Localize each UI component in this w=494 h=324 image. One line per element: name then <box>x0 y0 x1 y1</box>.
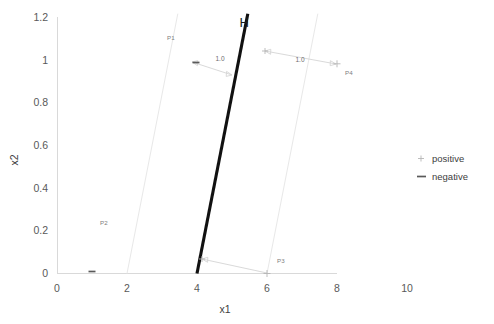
margin-distance-left-label: 1.0 <box>215 55 224 62</box>
point-labels-group: P1 P2 P3 P4 <box>100 34 353 264</box>
margin-arrow-left: 1.0 <box>192 55 232 76</box>
margin-line-left <box>127 14 178 274</box>
legend-label-positive: positive <box>432 153 464 164</box>
legend: positive negative <box>417 153 468 182</box>
y-tick-4: 0.8 <box>33 96 48 108</box>
data-point-positive-p3 <box>264 270 271 277</box>
x-tick-5: 10 <box>401 282 413 294</box>
point-label-p4: P4 <box>345 69 353 76</box>
point-label-p2: P2 <box>100 219 108 226</box>
chart-canvas: 0 0.2 0.4 0.6 0.8 1 1.2 0 2 4 6 8 10 x1 … <box>0 0 494 324</box>
x-axis-title: x1 <box>219 303 230 315</box>
decision-boundary-line <box>197 14 248 274</box>
point-label-p3: P3 <box>277 257 285 264</box>
data-point-positive-support-top <box>262 48 268 54</box>
margin-arrow-bottom-shaft <box>202 259 267 273</box>
margin-arrow-right: 1.0 <box>265 49 336 65</box>
svm-margin-plot: 0 0.2 0.4 0.6 0.8 1 1.2 0 2 4 6 8 10 x1 … <box>0 0 494 324</box>
y-tick-2: 0.4 <box>33 182 48 194</box>
margin-distance-right-label: 1.0 <box>295 56 304 63</box>
x-tick-3: 6 <box>264 282 270 294</box>
x-tick-labels: 0 2 4 6 8 10 <box>54 282 413 294</box>
y-tick-5: 1 <box>42 54 48 66</box>
margin-arrow-bottom <box>202 257 267 273</box>
y-tick-1: 0.2 <box>33 224 48 236</box>
point-label-p1: P1 <box>167 34 175 41</box>
data-point-positive-p4 <box>334 60 341 67</box>
x-tick-0: 0 <box>54 282 60 294</box>
y-tick-0: 0 <box>42 267 48 279</box>
x-tick-2: 4 <box>194 282 200 294</box>
legend-item-positive[interactable]: positive <box>418 153 464 164</box>
margin-arrow-left-shaft <box>192 62 232 75</box>
boundary-label-h: H <box>240 15 249 30</box>
data-points-group <box>89 48 341 277</box>
legend-label-negative: negative <box>432 171 468 182</box>
x-tick-1: 2 <box>124 282 130 294</box>
x-tick-4: 8 <box>334 282 340 294</box>
y-tick-3: 0.6 <box>33 139 48 151</box>
y-tick-labels: 0 0.2 0.4 0.6 0.8 1 1.2 <box>33 11 48 279</box>
y-axis-title: x2 <box>8 154 20 165</box>
y-tick-6: 1.2 <box>33 11 48 23</box>
legend-item-negative[interactable]: negative <box>417 171 468 182</box>
